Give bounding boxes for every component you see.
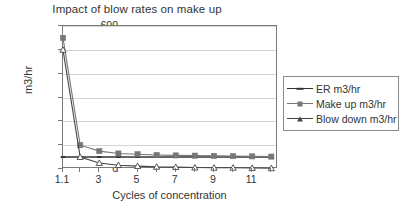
series-1 (60, 35, 274, 159)
legend-marker-icon (287, 82, 313, 95)
legend-label: ER m3/hr (313, 83, 360, 95)
data-point (230, 154, 235, 159)
data-point (211, 153, 216, 158)
data-point (97, 156, 102, 158)
x-tick-mark (62, 168, 63, 172)
data-series-svg (63, 26, 278, 169)
x-tick-mark (175, 168, 176, 172)
data-point (154, 152, 159, 157)
data-point (269, 154, 274, 159)
x-tick-label: 5 (134, 173, 140, 185)
legend-item[interactable]: Make up m3/hr (287, 96, 394, 111)
series-layer (63, 26, 276, 167)
x-tick-mark (98, 168, 99, 172)
x-tick-mark (213, 168, 214, 172)
x-tick-mark (156, 168, 157, 172)
x-tick-mark (117, 168, 118, 172)
y-axis-title: m3/hr (22, 40, 34, 120)
series-line (63, 50, 271, 168)
data-point (192, 153, 197, 158)
x-tick-label: 7 (172, 173, 178, 185)
legend-label: Make up m3/hr (313, 98, 386, 110)
chart-title: Impact of blow rates on make up (0, 3, 274, 15)
x-tick-label: 1.1 (55, 173, 70, 185)
legend-label: Blow down m3/hr (313, 113, 397, 125)
data-point (173, 153, 178, 158)
chart-legend: ER m3/hrMake up m3/hrBlow down m3/hr (283, 76, 399, 131)
plot-area (62, 25, 277, 168)
x-axis-title: Cycles of concentration (62, 189, 277, 201)
x-tick-mark (194, 168, 195, 172)
data-point (97, 149, 102, 154)
legend-marker-icon (287, 112, 313, 125)
x-tick-mark (137, 168, 138, 172)
legend-item[interactable]: Blow down m3/hr (287, 111, 394, 126)
legend-marker-icon (287, 97, 313, 110)
x-tick-mark (232, 168, 233, 172)
data-point (135, 152, 140, 157)
x-tick-label: 9 (210, 173, 216, 185)
series-2 (60, 47, 275, 171)
x-tick-mark (270, 168, 271, 172)
x-tick-mark (251, 168, 252, 172)
data-point (60, 35, 65, 40)
data-point (61, 156, 66, 158)
x-tick-mark (79, 168, 80, 172)
data-point (116, 156, 121, 158)
x-tick-label: 3 (95, 173, 101, 185)
series-line (63, 38, 271, 157)
x-tick-label: 11 (246, 173, 257, 185)
data-point (116, 151, 121, 156)
legend-item[interactable]: ER m3/hr (287, 81, 394, 96)
chart-container: Impact of blow rates on make up m3/hr 01… (0, 0, 404, 211)
data-point (250, 154, 255, 159)
